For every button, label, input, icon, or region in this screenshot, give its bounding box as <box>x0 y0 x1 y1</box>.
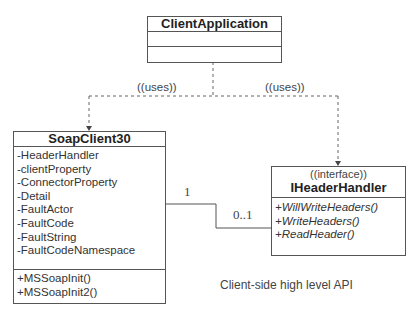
attribute: -FaultCode <box>14 217 165 231</box>
interface-iheaderhandler: ((interface)) IHeaderHandler +WillWriteH… <box>271 166 406 256</box>
multiplicity-target: 0..1 <box>233 207 253 223</box>
method: +ReadHeader() <box>272 228 405 242</box>
uses-label-left: ((uses)) <box>137 81 177 93</box>
method: +MSSoapInit() <box>14 272 165 286</box>
method: +MSSoapInit2() <box>14 286 165 300</box>
attribute: -FaultCodeNamespace <box>14 244 165 258</box>
attribute: -ConnectorProperty <box>14 176 165 190</box>
attribute: -Detail <box>14 190 165 204</box>
class-name: SoapClient30 <box>14 132 165 147</box>
diagram-caption: Client-side high level API <box>220 278 353 292</box>
attributes-compartment <box>148 32 281 47</box>
class-name: IHeaderHandler <box>272 180 405 195</box>
attribute: -HeaderHandler <box>14 149 165 163</box>
class-client-application: ClientApplication <box>147 16 282 63</box>
class-name: ClientApplication <box>148 17 281 32</box>
attribute: -FaultString <box>14 231 165 245</box>
header-compartment: ((interface)) IHeaderHandler <box>272 167 405 198</box>
stereotype: ((interface)) <box>272 168 405 180</box>
attribute: -clientProperty <box>14 163 165 177</box>
methods-compartment <box>148 47 281 62</box>
method: +WillWriteHeaders() <box>272 201 405 215</box>
multiplicity-source: 1 <box>184 184 191 200</box>
method: +WriteHeaders() <box>272 215 405 229</box>
association-line <box>165 204 271 228</box>
class-soapclient30: SoapClient30 -HeaderHandler -clientPrope… <box>13 131 166 304</box>
attributes-compartment: -HeaderHandler -clientProperty -Connecto… <box>14 147 165 270</box>
methods-compartment: +WillWriteHeaders() +WriteHeaders() +Rea… <box>272 198 405 242</box>
attribute: -FaultActor <box>14 203 165 217</box>
uses-label-right: ((uses)) <box>265 81 305 93</box>
methods-compartment: +MSSoapInit() +MSSoapInit2() <box>14 270 165 303</box>
